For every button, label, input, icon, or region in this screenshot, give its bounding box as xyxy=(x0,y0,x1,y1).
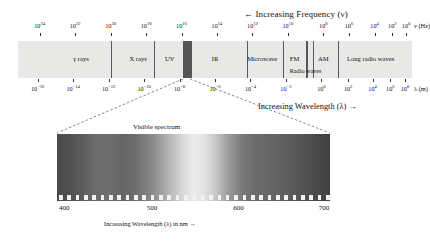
axis-tick-mark xyxy=(40,33,41,36)
nm-tick xyxy=(84,195,88,200)
axis-name: ν (Hz) xyxy=(414,23,430,29)
axis-tick-mark xyxy=(180,79,181,82)
nm-tick xyxy=(134,195,138,200)
band-label-infrared: IR xyxy=(212,56,219,63)
axis-tick-mark xyxy=(38,79,39,82)
nm-tick xyxy=(59,195,63,200)
axis-tick-mark xyxy=(215,79,216,82)
axis-tick-label: 10−10 xyxy=(137,86,150,92)
nm-tick xyxy=(251,195,255,200)
axis-tick-label: 1014 xyxy=(212,23,223,29)
axis-tick-label: 108 xyxy=(319,23,327,29)
band-label-gamma-rays: γ rays xyxy=(73,56,89,63)
nm-tick-label: 400 xyxy=(59,205,70,212)
axis-tick-mark xyxy=(349,33,350,36)
nm-tick xyxy=(318,195,322,200)
axis-tick-mark xyxy=(288,33,289,36)
axis-tick-mark xyxy=(250,79,251,82)
axis-tick-mark xyxy=(373,79,374,82)
axis-tick-label: 104 xyxy=(368,86,376,92)
band-label-radio-waves: Radio waves xyxy=(290,68,322,74)
band-divider xyxy=(111,41,112,78)
increasing-wavelength-label: Increasing Wavelength (λ) → xyxy=(258,102,357,111)
nm-tick xyxy=(167,195,171,200)
visible-spectrum-gradient xyxy=(57,134,330,201)
band-divider xyxy=(338,41,339,78)
nm-tick xyxy=(284,195,288,200)
axis-tick-label: 102 xyxy=(344,86,352,92)
nm-tick xyxy=(151,195,155,200)
nm-tick xyxy=(117,195,121,200)
band-label-fm: FM xyxy=(290,56,300,63)
nm-tick xyxy=(309,195,313,200)
nm-tick xyxy=(326,195,330,200)
axis-tick-mark xyxy=(182,33,183,36)
increasing-frequency-label: ← Increasing Frequency (ν) xyxy=(244,9,348,19)
axis-tick-label: 106 xyxy=(345,23,353,29)
axis-tick-label: 1010 xyxy=(282,23,293,29)
axis-tick-label: 108 xyxy=(401,86,409,92)
nm-tick xyxy=(293,195,297,200)
nm-tick xyxy=(184,195,188,200)
nm-tick xyxy=(301,195,305,200)
axis-tick-mark xyxy=(217,33,218,36)
axis-tick-mark xyxy=(390,79,391,82)
visible-spectrum-box xyxy=(57,134,330,201)
nm-tick xyxy=(193,195,197,200)
visible-spectrum-title: Visible spectrum xyxy=(133,123,180,131)
axis-tick-label: 1024 xyxy=(34,23,45,29)
axis-tick-label: 10−8 xyxy=(174,86,185,92)
nm-tick xyxy=(142,195,146,200)
nm-tick xyxy=(109,195,113,200)
nm-tick xyxy=(218,195,222,200)
axis-tick-mark xyxy=(111,33,112,36)
nm-tick-label: 700 xyxy=(319,205,330,212)
axis-tick-mark xyxy=(375,33,376,36)
nm-tick xyxy=(276,195,280,200)
axis-tick-label: 1018 xyxy=(141,23,152,29)
increasing-wavelength-nm-label: Increasing Wavelength (λ) in nm → xyxy=(104,220,196,227)
visible-band-stripe xyxy=(183,41,190,78)
nm-tick xyxy=(209,195,213,200)
nm-tick xyxy=(159,195,163,200)
band-label-am: AM xyxy=(318,56,329,63)
visible-spectrum-ticks xyxy=(57,195,330,200)
axis-tick-mark xyxy=(323,33,324,36)
axis-tick-label: 1022 xyxy=(70,23,81,29)
band-label-ultraviolet: UV xyxy=(165,56,175,63)
axis-tick-label: 100 xyxy=(402,23,410,29)
band-divider xyxy=(191,41,192,78)
axis-tick-label: 1020 xyxy=(105,23,116,29)
axis-tick-mark xyxy=(286,79,287,82)
axis-tick-mark xyxy=(146,33,147,36)
band-divider xyxy=(154,41,155,78)
band-label-microwave: Microwave xyxy=(247,56,277,63)
nm-tick xyxy=(126,195,130,200)
axis-tick-mark xyxy=(348,79,349,82)
nm-tick xyxy=(243,195,247,200)
nm-tick-label: 600 xyxy=(233,205,244,212)
axis-tick-label: 10−6 xyxy=(209,86,220,92)
band-divider xyxy=(283,41,284,78)
axis-tick-mark xyxy=(75,33,76,36)
nm-tick xyxy=(259,195,263,200)
axis-tick-label: 10−4 xyxy=(245,86,256,92)
axis-tick-mark xyxy=(252,33,253,36)
nm-tick-label: 500 xyxy=(147,205,158,212)
em-spectrum-figure: ← Increasing Frequency (ν) 1024102210201… xyxy=(0,0,430,242)
axis-tick-mark xyxy=(405,79,406,82)
spectrum-bar: γ raysX raysUVIRMicrowaveFMAMLong radio … xyxy=(18,41,412,78)
axis-tick-mark xyxy=(392,33,393,36)
axis-tick-label: 10−14 xyxy=(66,86,79,92)
nm-tick xyxy=(234,195,238,200)
axis-tick-mark xyxy=(109,79,110,82)
axis-tick-mark xyxy=(406,33,407,36)
nm-tick xyxy=(176,195,180,200)
axis-tick-label: 102 xyxy=(388,23,396,29)
nm-tick xyxy=(67,195,71,200)
nm-tick xyxy=(92,195,96,200)
nm-tick xyxy=(226,195,230,200)
nm-tick xyxy=(76,195,80,200)
axis-tick-label: 10−16 xyxy=(31,86,44,92)
axis-tick-mark xyxy=(144,79,145,82)
